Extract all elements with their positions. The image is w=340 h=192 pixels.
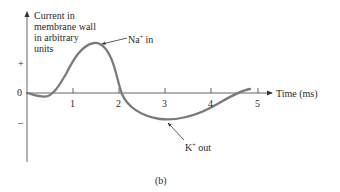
current-curve bbox=[27, 43, 250, 119]
x-tick-1: 1 bbox=[70, 98, 75, 109]
y-axis-label-line3: in arbitrary bbox=[34, 32, 79, 43]
k-arrow bbox=[168, 123, 184, 140]
na-direction: in bbox=[143, 34, 153, 45]
x-tick-4: 4 bbox=[208, 98, 213, 109]
y-axis-label-line4: units bbox=[34, 43, 53, 54]
na-in-annotation: Na+ in bbox=[128, 32, 153, 45]
x-tick-3: 3 bbox=[162, 98, 167, 109]
y-tick-zero: 0 bbox=[17, 87, 22, 98]
x-ticks bbox=[73, 88, 258, 93]
x-axis-label: Time (ms) bbox=[276, 88, 318, 99]
k-direction: out bbox=[196, 142, 211, 153]
x-tick-5: 5 bbox=[255, 98, 260, 109]
y-axis-label-line2: membrane wall bbox=[34, 21, 96, 32]
panel-label: (b) bbox=[155, 175, 167, 186]
y-tick-minus: – bbox=[18, 117, 23, 128]
na-symbol: Na bbox=[128, 34, 140, 45]
na-arrow bbox=[102, 38, 127, 44]
y-axis-label-line1: Current in bbox=[34, 10, 75, 21]
x-tick-2: 2 bbox=[116, 98, 121, 109]
y-tick-plus: + bbox=[18, 58, 24, 69]
k-out-annotation: K+ out bbox=[185, 140, 211, 153]
